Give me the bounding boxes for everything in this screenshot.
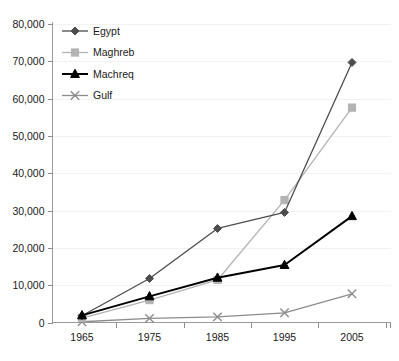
legend: EgyptMaghrebMachreqGulf	[62, 25, 135, 102]
y-tick-label-80000: 80,000	[12, 18, 44, 30]
y-tick-label-10000: 10,000	[12, 279, 44, 291]
legend-label-gulf: Gulf	[93, 89, 112, 101]
x-tick-label-1985: 1985	[206, 331, 230, 343]
datapoint-egypt-2005	[348, 58, 356, 66]
y-tick-label-20000: 20,000	[12, 242, 44, 254]
x-tick-label-1965: 1965	[70, 331, 94, 343]
datapoint-machreq-2005	[348, 211, 357, 219]
datapoint-egypt-1995	[281, 208, 289, 216]
y-tick-label-60000: 60,000	[12, 93, 44, 105]
legend-marker-maghreb	[71, 49, 78, 56]
gridlines	[53, 25, 391, 286]
chart-canvas: 010,00020,00030,00040,00050,00060,00070,…	[0, 0, 399, 361]
legend-marker-egypt	[71, 27, 79, 35]
datapoint-gulf-2005	[348, 290, 356, 298]
legend-item-maghreb: Maghreb	[62, 46, 135, 58]
legend-label-maghreb: Maghreb	[93, 46, 135, 58]
y-tick-label-50000: 50,000	[12, 130, 44, 142]
datapoint-maghreb-1995	[281, 197, 288, 204]
x-tick-label-2005: 2005	[340, 331, 364, 343]
legend-item-machreq: Machreq	[62, 68, 134, 80]
x-tick-label-1995: 1995	[273, 331, 297, 343]
legend-label-machreq: Machreq	[93, 68, 134, 80]
y-axis-ticks: 010,00020,00030,00040,00050,00060,00070,…	[12, 18, 52, 329]
datapoint-machreq-1995	[280, 260, 289, 268]
datapoint-maghreb-2005	[348, 104, 355, 111]
x-tick-label-1975: 1975	[138, 331, 162, 343]
y-tick-label-0: 0	[39, 317, 45, 329]
y-tick-label-40000: 40,000	[12, 167, 44, 179]
x-axis-ticks: 19651975198519952005	[70, 323, 386, 343]
legend-item-egypt: Egypt	[62, 25, 120, 37]
line-chart: 010,00020,00030,00040,00050,00060,00070,…	[0, 0, 399, 361]
legend-label-egypt: Egypt	[93, 25, 120, 37]
y-tick-label-70000: 70,000	[12, 55, 44, 67]
y-tick-label-30000: 30,000	[12, 205, 44, 217]
series-line-maghreb	[82, 108, 352, 318]
